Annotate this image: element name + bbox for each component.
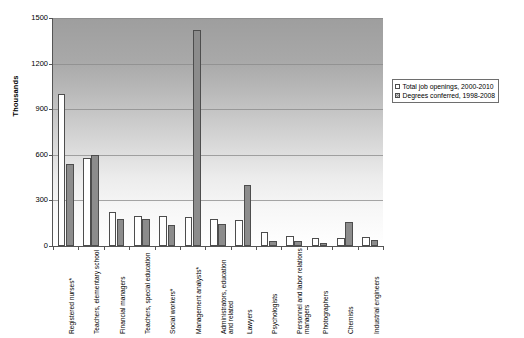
bar [362, 237, 370, 246]
legend-item-label: Degrees conferred, 1998-2008 [403, 91, 496, 100]
white-square-icon [395, 84, 400, 89]
x-axis-category-label: Photographers [322, 248, 329, 334]
x-axis-category-label: Management analysts* [195, 248, 202, 334]
bar [83, 158, 91, 246]
y-axis-tick-label: 1200 [18, 60, 48, 68]
y-axis-tick-label: 300 [18, 196, 48, 204]
y-axis-tick-label: 900 [18, 105, 48, 113]
y-axis-tick-label: 0 [18, 242, 48, 250]
bar [109, 212, 117, 246]
chart-legend: Total job openings, 2000-2010 Degrees co… [392, 79, 499, 103]
x-axis-category-label: Lawyers [246, 248, 253, 334]
bar [159, 216, 167, 246]
x-axis-category-label: Financial managers [119, 248, 126, 334]
y-axis-tick-mark [49, 18, 53, 19]
bar [312, 238, 320, 246]
bar [218, 224, 226, 246]
y-axis-tick-mark [49, 155, 53, 156]
bar [261, 232, 269, 246]
x-axis-category-labels: Registered nurses*Teachers, elementary s… [52, 246, 382, 338]
bar [66, 164, 74, 246]
x-axis-category-label: Psychologists [271, 248, 278, 334]
legend-item: Degrees conferred, 1998-2008 [395, 91, 495, 100]
y-axis-tick-labels: 030060090012001500 [18, 0, 48, 338]
bar [210, 219, 218, 246]
x-axis-category-label: Personnel and labor relations managers [296, 248, 311, 334]
bar [235, 220, 243, 246]
bar [193, 30, 201, 246]
bar [91, 155, 99, 246]
gridline [53, 109, 383, 110]
gray-hatched-square-icon [395, 93, 400, 98]
bar [168, 225, 176, 246]
legend-item: Total job openings, 2000-2010 [395, 82, 495, 91]
bar [286, 236, 294, 246]
plot-area [52, 18, 383, 247]
x-axis-category-label: Teachers, special education [144, 248, 151, 334]
bar [134, 216, 142, 246]
bar [58, 94, 66, 246]
y-axis-tick-label: 1500 [18, 14, 48, 22]
x-axis-category-label: Registered nurses* [68, 248, 75, 334]
gridline [53, 18, 383, 19]
x-axis-tick-mark [383, 246, 384, 250]
bar [337, 238, 345, 246]
bar [142, 219, 150, 246]
bar-chart: Thousands 030060090012001500 Registered … [0, 0, 524, 338]
x-axis-category-label: Administrators, education and related [220, 248, 235, 334]
bar [345, 222, 353, 246]
bar [117, 219, 125, 246]
gridline [53, 64, 383, 65]
x-axis-category-label: Social workers* [169, 248, 176, 334]
y-axis-tick-mark [49, 64, 53, 65]
x-axis-category-label: Industrial engineers [373, 248, 380, 334]
bar [244, 185, 252, 246]
gridline [53, 200, 383, 201]
y-axis-tick-label: 600 [18, 151, 48, 159]
x-axis-category-label: Chemists [347, 248, 354, 334]
legend-item-label: Total job openings, 2000-2010 [403, 82, 494, 91]
y-axis-tick-mark [49, 200, 53, 201]
bar [185, 217, 193, 246]
x-axis-category-label: Teachers, elementary school [93, 248, 100, 334]
gridline [53, 155, 383, 156]
y-axis-tick-mark [49, 109, 53, 110]
